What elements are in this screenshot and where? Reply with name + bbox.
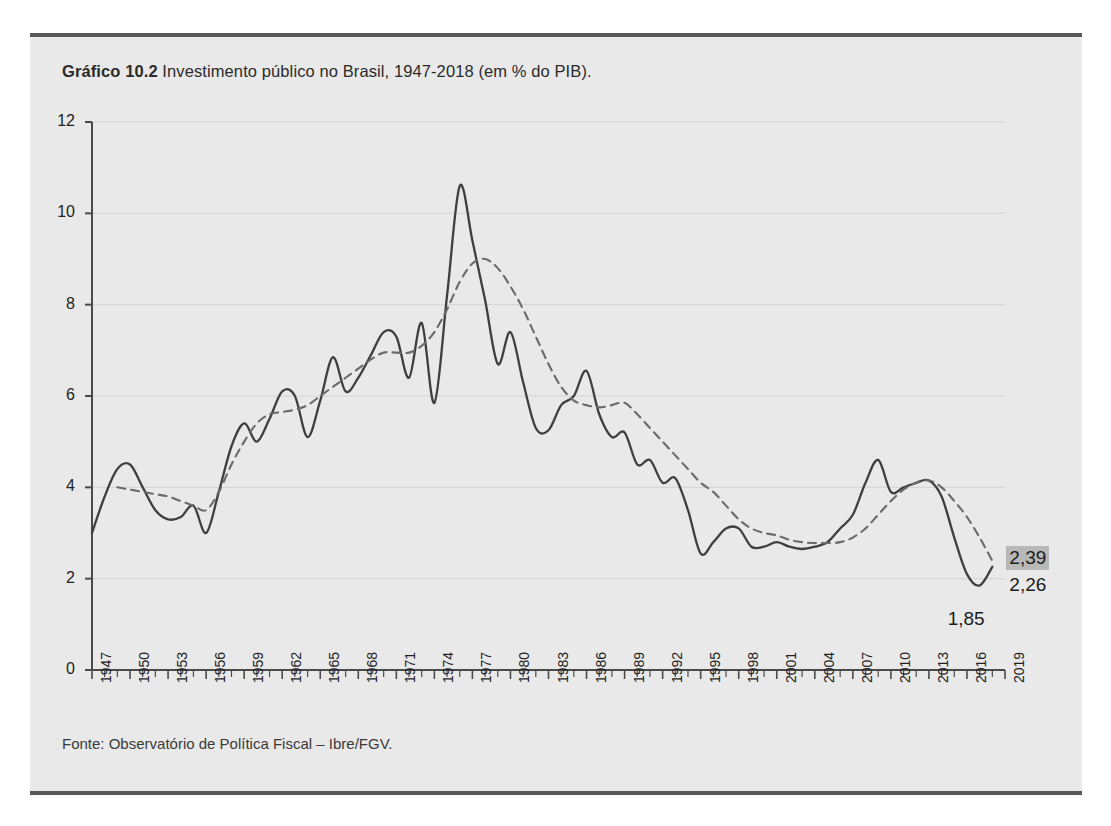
x-tick-label: 1977 (478, 652, 494, 683)
x-tick-label: 1965 (326, 652, 342, 683)
x-tick-label: 1968 (364, 652, 380, 683)
y-tick-label: 8 (45, 295, 75, 313)
x-tick-label: 1983 (555, 652, 571, 683)
x-tick-label: 1956 (212, 652, 228, 683)
x-tick-label: 2016 (973, 652, 989, 683)
x-tick-label: 2001 (783, 652, 799, 683)
data-series (92, 185, 992, 586)
plot-area: 024681012 194719501953195619591962196519… (30, 33, 1082, 795)
series-line (92, 185, 992, 586)
x-tick-label: 1998 (745, 652, 761, 683)
x-tick-label: 1974 (440, 652, 456, 683)
axis-ticks (85, 122, 1005, 679)
series-line (117, 259, 992, 561)
chart-figure: Gráfico 10.2 Investimento público no Bra… (30, 33, 1082, 795)
x-tick-label: 1950 (136, 652, 152, 683)
x-tick-label: 2010 (897, 652, 913, 683)
x-tick-label: 1989 (631, 652, 647, 683)
x-tick-label: 1962 (288, 652, 304, 683)
x-tick-label: 1986 (593, 652, 609, 683)
trend-end-label: 2,39 (1006, 546, 1049, 570)
y-tick-label: 12 (45, 112, 75, 130)
x-tick-label: 2013 (935, 652, 951, 683)
source-note: Fonte: Observatório de Política Fiscal –… (62, 735, 392, 752)
trough-label: 1,85 (948, 608, 985, 630)
x-tick-label: 1995 (707, 652, 723, 683)
series-end-label: 2,26 (1009, 574, 1046, 596)
y-tick-label: 6 (45, 386, 75, 404)
x-tick-label: 2007 (859, 652, 875, 683)
x-tick-label: 1980 (516, 652, 532, 683)
y-tick-label: 10 (45, 203, 75, 221)
gridlines (92, 122, 1005, 579)
x-tick-label: 2004 (821, 652, 837, 683)
x-tick-label: 1953 (174, 652, 190, 683)
x-tick-label: 1971 (402, 652, 418, 683)
y-tick-label: 0 (45, 660, 75, 678)
x-tick-label: 1992 (669, 652, 685, 683)
y-tick-label: 4 (45, 477, 75, 495)
x-tick-label: 1959 (250, 652, 266, 683)
y-tick-label: 2 (45, 569, 75, 587)
x-tick-label: 1947 (98, 652, 114, 683)
x-tick-label: 2019 (1011, 652, 1027, 683)
